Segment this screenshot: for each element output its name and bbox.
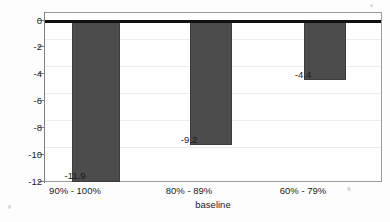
bar-value-80-89: -9.2 — [168, 135, 210, 145]
x-axis-title: baseline — [44, 200, 382, 210]
y-tick-label-5: -10 — [14, 150, 42, 160]
x-category-label-1: 80% - 89% — [149, 186, 229, 196]
bar-80-89[interactable] — [190, 21, 232, 145]
bar-value-90-100: -11.9 — [51, 171, 99, 181]
y-axis-line — [44, 12, 45, 183]
zero-line — [45, 20, 381, 23]
x-category-label-2: 60% - 79% — [263, 186, 343, 196]
scan-speckle — [8, 205, 11, 209]
scan-speckle — [347, 187, 351, 191]
scan-speckle — [370, 4, 373, 7]
bar-90-100[interactable] — [72, 21, 120, 182]
y-tick-label-4: -8 — [14, 123, 42, 133]
y-tick-label-3: -6 — [14, 96, 42, 106]
bar-value-60-79: -4.4 — [282, 70, 324, 80]
bar-chart: 0 -2 -4 -6 -8 -10 -12 -11.9 -9.2 -4.4 90… — [0, 0, 390, 222]
x-category-label-0: 90% - 100% — [35, 186, 115, 196]
y-tick-label-1: -2 — [14, 42, 42, 52]
y-tick-label-0: 0 — [14, 16, 42, 26]
y-tick-label-2: -4 — [14, 69, 42, 79]
plot-area — [44, 12, 382, 182]
